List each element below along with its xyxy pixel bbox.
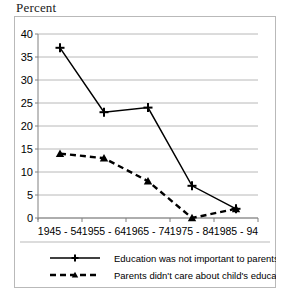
x-tick-label: 1945 - 54 xyxy=(38,225,83,237)
y-axis-tick-labels: 0510152025303540 xyxy=(21,28,33,224)
legend-entry-1: Education was not important to parents xyxy=(50,253,276,264)
x-axis-tick-labels: 1945 - 541955 - 641965 - 741975 - 841985… xyxy=(38,225,259,237)
data-point-marker-plus xyxy=(56,43,65,52)
axis-lines xyxy=(35,34,258,222)
legend-label: Education was not important to parents xyxy=(114,253,276,264)
y-tick-label: 35 xyxy=(21,51,33,63)
data-point-marker-plus xyxy=(188,181,197,190)
y-tick-label: 10 xyxy=(21,166,33,178)
x-tick-label: 1975 - 84 xyxy=(170,225,215,237)
x-tick-label: 1985 - 94 xyxy=(214,225,259,237)
series-2 xyxy=(56,149,240,221)
plot-region: 0510152025303540 1945 - 541955 - 641965 … xyxy=(14,16,276,288)
series-line xyxy=(60,154,236,218)
y-tick-label: 30 xyxy=(21,74,33,86)
gridlines xyxy=(38,34,258,218)
y-tick-label: 0 xyxy=(27,212,33,224)
x-tick-label: 1955 - 64 xyxy=(82,225,127,237)
legend-entry-2: Parents didn't care about child's educat… xyxy=(50,270,276,281)
x-tick-label: 1965 - 74 xyxy=(126,225,171,237)
y-tick-label: 5 xyxy=(27,189,33,201)
chart-title: Percent xyxy=(16,0,56,16)
legend-label: Parents didn't care about child's educat… xyxy=(114,270,276,281)
chart-legend: Education was not important to parentsPa… xyxy=(20,242,276,281)
y-tick-label: 15 xyxy=(21,143,33,155)
data-point-marker-plus xyxy=(100,108,109,117)
series-1 xyxy=(56,43,241,213)
y-tick-label: 25 xyxy=(21,97,33,109)
y-tick-label: 40 xyxy=(21,28,33,40)
data-point-marker-plus xyxy=(72,255,79,262)
chart-figure: Percent 0510152025303540 1945 - 541955 -… xyxy=(0,0,291,296)
chart-canvas: 0510152025303540 1945 - 541955 - 641965 … xyxy=(14,16,276,288)
data-point-marker-plus xyxy=(144,103,153,112)
y-tick-label: 20 xyxy=(21,120,33,132)
series-line xyxy=(60,48,236,209)
